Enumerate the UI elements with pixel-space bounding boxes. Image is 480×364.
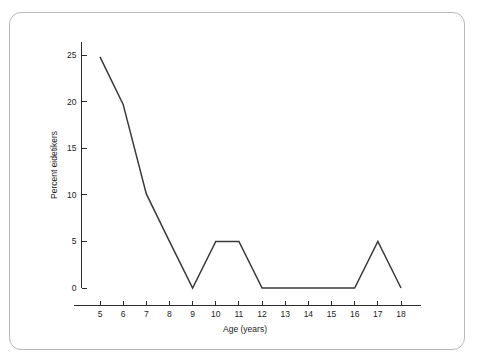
y-tick-label: 25 [67, 50, 77, 60]
plot-area [100, 57, 401, 288]
y-tick-label: 5 [72, 236, 77, 246]
x-tick-label: 9 [190, 309, 195, 319]
x-axis-group: 56789101112131415161718 Age (years) [74, 301, 421, 335]
y-axis-title: Percent eidetikers [49, 131, 59, 199]
x-tick-label: 16 [350, 309, 360, 319]
x-tick-label-group: 56789101112131415161718 [98, 309, 406, 319]
y-tick-label: 15 [67, 143, 77, 153]
x-axis-title: Age (years) [223, 324, 267, 334]
x-tick-group [100, 301, 401, 306]
y-tick-label: 0 [72, 283, 77, 293]
data-series-line [100, 57, 401, 288]
x-tick-label: 11 [235, 309, 244, 319]
x-tick-label: 7 [144, 309, 149, 319]
x-tick-label: 15 [327, 309, 337, 319]
y-tick-label: 10 [67, 190, 77, 200]
x-tick-label: 13 [280, 309, 290, 319]
y-tick-label: 20 [67, 97, 77, 107]
x-tick-label: 10 [211, 309, 221, 319]
y-tick-group [82, 55, 87, 288]
y-tick-label-group: 0510152025 [67, 50, 77, 293]
x-tick-label: 14 [304, 309, 314, 319]
x-tick-label: 17 [373, 309, 383, 319]
x-tick-label: 6 [121, 309, 126, 319]
y-axis-group: 0510152025 Percent eidetikers [49, 42, 87, 293]
x-tick-label: 8 [167, 309, 172, 319]
x-tick-label: 5 [98, 309, 103, 319]
figure-root: 0510152025 Percent eidetikers 5678910111… [0, 0, 480, 364]
x-tick-label: 18 [396, 309, 406, 319]
x-tick-label: 12 [257, 309, 267, 319]
line-chart: 0510152025 Percent eidetikers 5678910111… [0, 0, 480, 364]
